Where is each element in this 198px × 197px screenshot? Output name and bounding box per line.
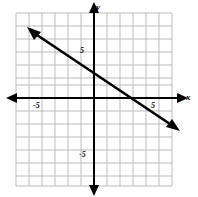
y-axis-arrow-bottom	[89, 185, 99, 196]
coordinate-plane-graph: y x 5 -5 -5 5	[0, 0, 198, 197]
x-axis-arrow-left	[6, 93, 17, 103]
x-axis-label: x	[186, 93, 191, 102]
x-axis-tick-label-5: 5	[151, 102, 155, 110]
y-axis-tick-label-5: 5	[80, 47, 84, 55]
x-axis-tick-label-negative-5: -5	[33, 102, 40, 110]
graph-canvas	[0, 0, 198, 197]
y-axis-label: y	[96, 3, 100, 12]
plotted-line	[27, 27, 180, 131]
line-arrow-lower-right	[166, 119, 180, 131]
y-axis-tick-label-negative-5: -5	[79, 151, 86, 159]
